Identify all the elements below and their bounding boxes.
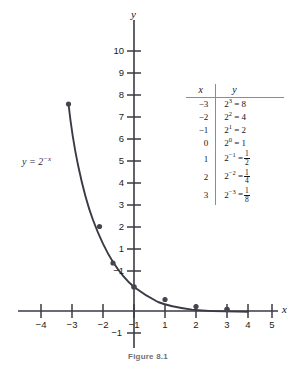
y-tick-label-10: 9 — [98, 68, 124, 78]
power-expression: 21 — [224, 125, 232, 135]
fraction-denominator: 4 — [244, 177, 250, 185]
data-point — [224, 307, 230, 313]
result-value: = 8 — [234, 99, 246, 109]
cell-y: 2−2 =14 — [216, 168, 284, 186]
fraction-denominator: 2 — [244, 159, 250, 167]
cell-x: −1 — [186, 124, 216, 137]
power-expression: 2−2 — [224, 171, 235, 181]
y-tick-label-9: 8 — [98, 90, 124, 100]
y-tick-label-7: 6 — [98, 134, 124, 144]
y-tick-label-4: 3 — [98, 200, 124, 210]
power-expression: 2−1 — [224, 153, 235, 163]
power-expression: 2−3 — [224, 190, 235, 200]
fraction-denominator: 8 — [244, 196, 250, 204]
y-tick-label-1: −1 — [98, 266, 124, 276]
exponential-decay-figure: 10 9 8 7 6 5 4 3 2 1 −1 −1 −4 −3 −2 −1 1… — [0, 0, 296, 370]
cell-y: 2−3 =18 — [216, 186, 284, 204]
table-header-row: x y — [186, 84, 284, 98]
result-value: = 1 — [234, 138, 246, 148]
result-value: = — [238, 153, 243, 163]
data-point — [162, 297, 167, 302]
table-row: 0 20 = 1 — [186, 137, 284, 150]
figure-caption: Figure 8.1 — [0, 352, 296, 361]
power-exponent: 1 — [229, 123, 232, 130]
data-point — [66, 101, 71, 106]
curve-equation-base: y = 2 — [22, 156, 43, 167]
x-tick-label-2: 2 — [186, 320, 206, 330]
x-tick-label-neg2: −2 — [93, 320, 113, 330]
curve-equation-label: y = 2−x — [22, 155, 51, 167]
x-tick-label-3: 3 — [217, 320, 237, 330]
y-tick-label-8: 7 — [98, 112, 124, 122]
data-point — [131, 284, 137, 290]
power-exponent: −2 — [229, 169, 236, 176]
table-row: 3 2−3 =18 — [186, 186, 284, 204]
y-tick-label-5: 4 — [98, 178, 124, 188]
cell-x: −3 — [186, 98, 216, 111]
fraction: 18 — [244, 187, 250, 203]
x-tick-label-neg3: −3 — [62, 320, 82, 330]
table-body: −3 23 = 8 −2 22 = 4 −1 21 = 2 0 20 = 1 1 — [186, 98, 284, 205]
cell-x: 0 — [186, 137, 216, 150]
power-exponent: −1 — [229, 151, 236, 158]
table-row: −2 22 = 4 — [186, 111, 284, 124]
cell-y: 20 = 1 — [216, 137, 284, 150]
power-exponent: 0 — [229, 136, 232, 143]
result-value: = 4 — [234, 112, 246, 122]
power-expression: 20 — [224, 138, 232, 148]
result-value: = 2 — [234, 125, 246, 135]
y-tick-label-11: 10 — [98, 46, 124, 56]
cell-y: 22 = 4 — [216, 111, 284, 124]
cell-y: 23 = 8 — [216, 98, 284, 111]
xy-table: x y −3 23 = 8 −2 22 = 4 −1 21 = 2 — [186, 84, 284, 205]
cell-y: 2−1 =12 — [216, 150, 284, 168]
power-expression: 22 — [224, 112, 232, 122]
curve-equation-exponent: −x — [43, 155, 51, 163]
data-point — [193, 304, 198, 309]
x-tick-label-5: 5 — [262, 320, 282, 330]
table-row: −1 21 = 2 — [186, 124, 284, 137]
y-tick-label-3: 2 — [98, 222, 124, 232]
cell-y: 21 = 2 — [216, 124, 284, 137]
fraction: 12 — [244, 150, 250, 166]
table-row: −3 23 = 8 — [186, 98, 284, 111]
x-tick-label-4: 4 — [238, 320, 258, 330]
power-exponent: −3 — [229, 188, 236, 195]
cell-x: 3 — [186, 186, 216, 204]
x-tick-label-neg4: −4 — [31, 320, 51, 330]
value-table: x y −3 23 = 8 −2 22 = 4 −1 21 = 2 — [186, 84, 284, 205]
x-tick-label-neg1: −1 — [124, 320, 144, 330]
x-tick-label-1: 1 — [155, 320, 175, 330]
table-header: x y — [186, 84, 284, 98]
y-tick-label-6: 5 — [98, 156, 124, 166]
header-x: x — [186, 84, 216, 98]
x-axis-label: x — [282, 303, 287, 315]
y-axis-label: y — [131, 8, 136, 20]
result-value: = — [238, 190, 243, 200]
result-value: = — [238, 171, 243, 181]
header-y: y — [216, 84, 284, 98]
cell-x: 1 — [186, 150, 216, 168]
table-row: 1 2−1 =12 — [186, 150, 284, 168]
y-tick-label-2: 1 — [98, 244, 124, 254]
cell-x: 2 — [186, 168, 216, 186]
fraction: 14 — [244, 169, 250, 185]
power-expression: 23 — [224, 99, 232, 109]
cell-x: −2 — [186, 111, 216, 124]
power-exponent: 3 — [229, 97, 232, 104]
table-row: 2 2−2 =14 — [186, 168, 284, 186]
power-exponent: 2 — [229, 110, 232, 117]
